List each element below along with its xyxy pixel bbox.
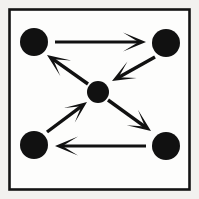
node-top-right: Top right node (152, 29, 180, 57)
node-bottom-left: Bottom left node (20, 131, 48, 159)
diagram-svg: Arrow from top left node to top right no… (0, 0, 199, 199)
node-bottom-right: Bottom right node (152, 132, 180, 160)
node-center: Center node (87, 81, 109, 103)
diagram-canvas: Arrow from top left node to top right no… (0, 0, 199, 199)
node-top-left: Top left node (20, 28, 48, 56)
